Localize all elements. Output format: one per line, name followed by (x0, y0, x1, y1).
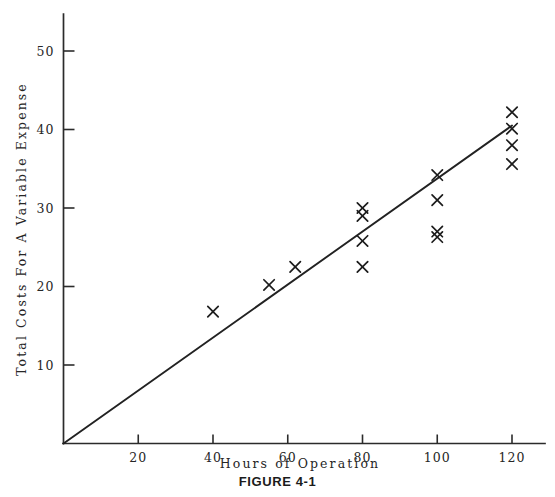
y-axis-ticks: 1020304050 (36, 44, 74, 373)
figure-caption: FIGURE 4-1 (0, 474, 555, 489)
y-tick-label: 20 (36, 279, 54, 294)
y-tick-label: 40 (36, 122, 54, 137)
data-point-marker (432, 232, 442, 242)
axes (63, 14, 545, 444)
axis-titles: Total Costs For A Variable Expense Hours… (14, 82, 380, 471)
y-axis-title: Total Costs For A Variable Expense (14, 82, 29, 376)
y-tick-label: 10 (36, 358, 54, 373)
data-point-marker (507, 140, 517, 150)
data-point-marker (290, 262, 300, 272)
figure-container: 1020304050 20406080100120 Total Costs Fo… (0, 0, 555, 497)
data-point-marker (357, 262, 367, 272)
scatter-plot: 1020304050 20406080100120 Total Costs Fo… (0, 0, 555, 497)
x-tick-label: 100 (424, 450, 451, 465)
x-tick-label: 120 (498, 450, 525, 465)
y-tick-label: 30 (36, 201, 54, 216)
data-point-marker (432, 195, 442, 205)
y-tick-label: 50 (36, 44, 54, 59)
trend-line (64, 126, 513, 444)
x-tick-label: 20 (129, 450, 147, 465)
regression-line (64, 126, 513, 444)
data-point-marker (208, 306, 218, 316)
data-point-marker (432, 226, 442, 236)
data-point-marker (507, 107, 517, 117)
data-point-marker (507, 159, 517, 169)
data-point-marker (357, 211, 367, 221)
data-point-marker (264, 280, 274, 290)
x-axis-title: Hours of Operation (220, 456, 380, 471)
data-points (208, 107, 517, 317)
data-point-marker (357, 236, 367, 246)
